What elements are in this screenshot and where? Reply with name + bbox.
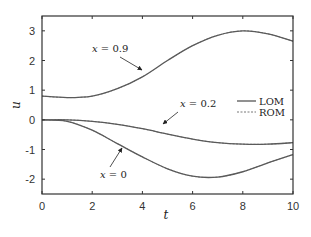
x-tick-label: 2 xyxy=(89,200,95,212)
y-axis-label: u xyxy=(9,101,23,109)
x-tick-label: 4 xyxy=(139,200,145,212)
annotation: x = 0 xyxy=(100,148,127,180)
series-layer xyxy=(42,31,293,178)
y-tick-label: -2 xyxy=(25,173,35,185)
x-tick-label: 10 xyxy=(287,200,299,212)
annotation-label: x = 0.9 xyxy=(92,43,128,54)
annotation: x = 0.9 xyxy=(92,43,142,70)
annotation-arrow xyxy=(120,57,142,70)
annotation-arrow xyxy=(110,148,122,167)
series-lom-line xyxy=(42,120,293,178)
annotation-layer: x = 0.9x = 0.2x = 0 xyxy=(92,43,216,180)
annotation-arrow xyxy=(163,112,178,124)
y-tick-label: 0 xyxy=(29,114,35,126)
y-tick-label: 1 xyxy=(29,84,35,96)
series-lom-line xyxy=(42,31,293,98)
x-tick-label: 6 xyxy=(190,200,196,212)
x-tick-label: 0 xyxy=(39,200,45,212)
legend-label-lom: LOM xyxy=(259,96,284,107)
annotation-label: x = 0 xyxy=(100,169,127,180)
series-rom-line xyxy=(42,120,293,145)
series-rom-line xyxy=(42,31,293,98)
y-tick-label: 2 xyxy=(29,55,35,67)
annotation: x = 0.2 xyxy=(163,98,216,124)
annotation-label: x = 0.2 xyxy=(180,98,216,109)
x-axis-label: t xyxy=(164,208,169,222)
legend-label-rom: ROM xyxy=(259,107,285,118)
legend: LOM ROM xyxy=(237,96,285,118)
y-tick-label: -1 xyxy=(25,144,35,156)
x-tick-label: 8 xyxy=(240,200,246,212)
line-chart: 0246810-2-10123 x = 0.9x = 0.2x = 0 t u … xyxy=(0,0,311,237)
y-tick-label: 3 xyxy=(29,25,35,37)
series-lom-line xyxy=(42,120,293,145)
